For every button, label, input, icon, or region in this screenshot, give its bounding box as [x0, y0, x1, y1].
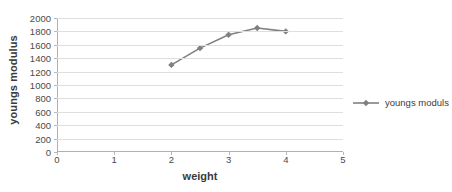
- x-axis-title-label: weight: [183, 170, 218, 182]
- y-tick-label: 200: [21, 134, 51, 143]
- x-tick-label: 0: [45, 154, 69, 165]
- y-tick-mark: [54, 85, 57, 86]
- gridline: [57, 58, 343, 59]
- line-chart: youngs modulus 0200400600800100012001400…: [0, 0, 452, 192]
- x-tick-label: 4: [274, 154, 298, 165]
- x-tick-label: 1: [102, 154, 126, 165]
- x-tick-label: 5: [331, 154, 355, 165]
- gridline: [57, 139, 343, 140]
- plot-area: [57, 18, 343, 152]
- y-tick-mark: [54, 45, 57, 46]
- gridline: [57, 72, 343, 73]
- legend-series-marker-icon: [352, 98, 380, 108]
- data-point-marker: [225, 32, 231, 38]
- data-point-marker: [254, 25, 260, 31]
- x-axis-tick-labels: 012345: [57, 154, 343, 168]
- gridline: [57, 31, 343, 32]
- y-tick-mark: [54, 125, 57, 126]
- x-tick-label: 3: [217, 154, 241, 165]
- x-axis-title: weight: [57, 170, 343, 182]
- y-tick-mark: [54, 112, 57, 113]
- y-tick-label: 1600: [21, 40, 51, 49]
- y-tick-mark: [54, 98, 57, 99]
- y-tick-label: 400: [21, 121, 51, 130]
- y-tick-label: 1800: [21, 27, 51, 36]
- gridline: [57, 125, 343, 126]
- data-point-marker: [197, 45, 203, 51]
- y-tick-label: 800: [21, 94, 51, 103]
- y-tick-label: 600: [21, 107, 51, 116]
- y-tick-mark: [54, 31, 57, 32]
- y-axis-title-label: youngs modulus: [7, 35, 19, 124]
- gridline: [57, 85, 343, 86]
- y-tick-mark: [54, 72, 57, 73]
- chart-legend: youngs moduls: [352, 98, 449, 108]
- gridline: [57, 18, 343, 19]
- gridline: [57, 45, 343, 46]
- y-tick-label: 2000: [21, 14, 51, 23]
- data-point-marker: [168, 62, 174, 68]
- gridline: [57, 98, 343, 99]
- y-axis-tick-labels: 0200400600800100012001400160018002000: [22, 12, 54, 152]
- x-tick-label: 2: [159, 154, 183, 165]
- legend-series-label: youngs moduls: [385, 98, 449, 108]
- y-tick-label: 1000: [21, 81, 51, 90]
- y-tick-label: 1200: [21, 67, 51, 76]
- gridline: [57, 112, 343, 113]
- y-tick-mark: [54, 58, 57, 59]
- y-tick-label: 1400: [21, 54, 51, 63]
- y-tick-mark: [54, 18, 57, 19]
- y-tick-mark: [54, 139, 57, 140]
